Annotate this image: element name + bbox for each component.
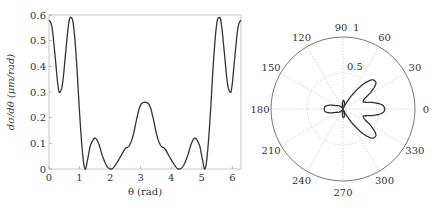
x-tick-label: 6 — [229, 172, 235, 183]
figure: 0123456 00.10.20.30.40.50.6 θ (rad) dσ/d… — [0, 0, 438, 210]
angle-label: 300 — [375, 175, 394, 186]
radial-tick-1: 1 — [353, 22, 359, 33]
y-tick-label: 0.4 — [30, 61, 46, 72]
x-tick-label: 3 — [137, 172, 143, 183]
angle-label: 0 — [423, 104, 429, 115]
y-tick-label: 0.5 — [30, 35, 46, 46]
radial-tick-0.5: 0.5 — [347, 61, 363, 72]
angle-label: 90 — [335, 22, 348, 33]
x-tick-label: 5 — [199, 172, 205, 183]
angle-label: 270 — [333, 187, 352, 198]
angle-label: 150 — [262, 62, 281, 73]
polar-plot: 0306090120150180210240270300330 0.5 1 — [250, 22, 429, 198]
x-axis-label: θ (rad) — [128, 186, 162, 197]
y-tick-label: 0.2 — [30, 112, 46, 123]
cartesian-plot: 0123456 00.10.20.30.40.50.6 θ (rad) dσ/d… — [5, 10, 241, 198]
angle-label: 210 — [262, 145, 281, 156]
y-tick-label: 0.6 — [30, 10, 46, 21]
data-line — [49, 17, 241, 169]
x-tick-label: 1 — [76, 172, 82, 183]
angle-label: 330 — [405, 145, 424, 156]
x-tick-label: 2 — [107, 172, 113, 183]
angle-label: 180 — [250, 104, 269, 115]
y-tick-label: 0 — [40, 164, 46, 175]
angle-label: 60 — [378, 32, 391, 43]
x-tick-label: 0 — [46, 172, 52, 183]
x-axis-ticks: 0123456 — [46, 166, 236, 183]
y-axis-label: dσ/dθ (μm/rad) — [5, 54, 16, 131]
x-tick-label: 4 — [168, 172, 174, 183]
y-tick-label: 0.1 — [30, 138, 46, 149]
angle-label: 240 — [292, 175, 311, 186]
angle-label: 30 — [409, 62, 422, 73]
y-tick-label: 0.3 — [30, 87, 46, 98]
polar-angle-labels: 0306090120150180210240270300330 — [250, 22, 429, 198]
angle-label: 120 — [292, 32, 311, 43]
